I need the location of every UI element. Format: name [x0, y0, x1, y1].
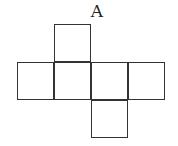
net-cell-center-right — [91, 62, 128, 100]
net-cell-bottom — [91, 100, 128, 138]
net-label: A — [88, 2, 106, 20]
net-cell-top — [54, 24, 91, 62]
net-cell-center-left — [54, 62, 91, 100]
net-cell-right — [128, 62, 165, 100]
net-cell-left — [17, 62, 54, 100]
